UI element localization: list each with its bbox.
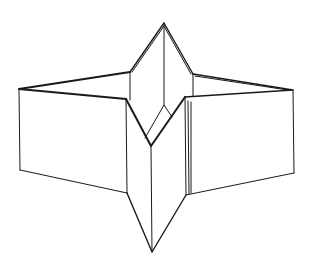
bottom-spike: [127, 193, 186, 252]
top-spike: [130, 23, 193, 105]
folded-paper-star-diagram: [0, 0, 310, 271]
center-fold: [126, 97, 185, 252]
right-panel: [185, 74, 294, 195]
left-panel: [19, 72, 130, 193]
